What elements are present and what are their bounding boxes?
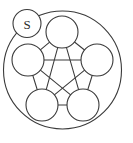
source-badge-label: S	[23, 17, 30, 32]
network-graph-svg: S	[0, 0, 133, 143]
diagram-canvas: S	[0, 0, 133, 143]
graph-edge-n0-n1	[74, 42, 84, 50]
left-node[interactable]	[12, 44, 44, 76]
graph-edge-n3-n4	[33, 75, 38, 89]
source-node-badge[interactable]: S	[13, 10, 41, 38]
top-node[interactable]	[46, 16, 78, 48]
right-node[interactable]	[81, 44, 113, 76]
bottom-right-node[interactable]	[67, 89, 99, 121]
graph-edge-n1-n2	[88, 75, 93, 89]
bottom-left-node[interactable]	[26, 89, 58, 121]
graph-edge-n4-n0	[40, 42, 49, 50]
